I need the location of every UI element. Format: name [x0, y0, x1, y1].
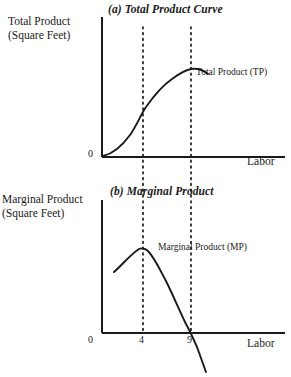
- panel-b-title: (b) Marginal Product: [110, 185, 214, 197]
- panel-a-y-axis-title-line2: (Square Feet): [8, 28, 70, 42]
- panel-a-title: (a) Total Product Curve: [108, 3, 223, 15]
- panel-b-x-axis-title: Labor: [247, 337, 274, 349]
- marginal-product-curve-label: Marginal Product (MP): [158, 242, 247, 252]
- panel-a-y-axis-title: Total Product (Square Feet): [8, 14, 70, 42]
- panel-b-y-axis-title-line1: Marginal Product: [2, 192, 83, 206]
- panel-b-origin-label: 0: [88, 334, 93, 345]
- figure-total-and-marginal-product: (a) Total Product Curve Total Product (S…: [0, 0, 291, 377]
- panel-b-tick-label-9: 9: [187, 334, 192, 345]
- total-product-curve-label: Total Product (TP): [196, 67, 267, 77]
- panel-a-origin-label: 0: [88, 148, 93, 159]
- marginal-product-curve: [114, 248, 206, 372]
- total-product-curve: [103, 69, 208, 156]
- panel-b-y-axis-title-line2: (Square Feet): [2, 206, 83, 220]
- panel-b-y-axis-title: Marginal Product (Square Feet): [2, 192, 83, 220]
- panel-b-tick-label-4: 4: [139, 334, 144, 345]
- panel-a-x-axis-title: Labor: [247, 155, 274, 167]
- panel-a-y-axis-title-line1: Total Product: [8, 14, 70, 28]
